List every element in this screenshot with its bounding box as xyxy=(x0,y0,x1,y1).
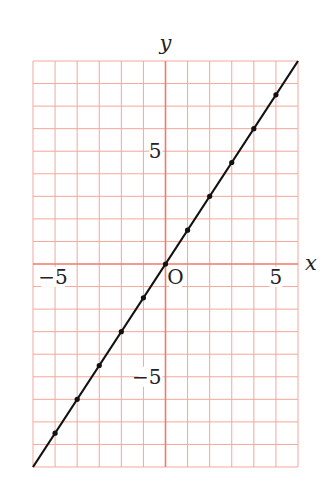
y-tick-label: −5 xyxy=(132,365,161,389)
x-tick-label: 5 xyxy=(270,265,283,289)
y-tick-label: 5 xyxy=(149,139,162,163)
data-point xyxy=(207,194,212,199)
x-axis-title: x xyxy=(305,251,317,275)
origin-label: O xyxy=(167,265,183,289)
data-point xyxy=(163,261,168,266)
coordinate-plane: yxO−555−5 xyxy=(0,0,336,504)
data-point xyxy=(119,329,124,334)
x-tick-label: −5 xyxy=(38,265,67,289)
data-point xyxy=(251,126,256,131)
axis-labels: yxO−555−5 xyxy=(38,31,317,389)
data-point xyxy=(52,431,57,436)
data-point xyxy=(229,160,234,165)
data-point xyxy=(273,92,278,97)
data-point xyxy=(141,295,146,300)
data-point xyxy=(185,228,190,233)
data-point xyxy=(97,363,102,368)
data-point xyxy=(75,397,80,402)
y-axis-title: y xyxy=(159,31,173,55)
